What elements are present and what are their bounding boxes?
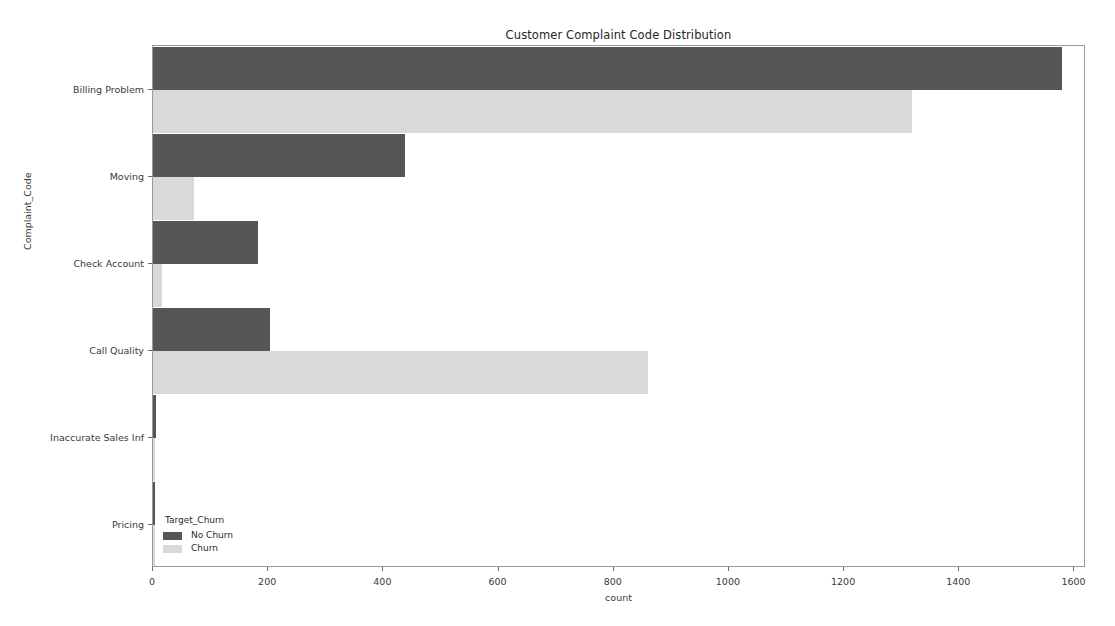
bar-check-account-no-churn (153, 221, 258, 264)
bar-billing-problem-churn (153, 90, 912, 133)
y-tick-mark (148, 263, 152, 264)
x-tick-label-0: 0 (149, 576, 155, 587)
x-tick-mark (613, 567, 614, 571)
bar-moving-no-churn (153, 134, 405, 177)
bar-moving-churn (153, 177, 194, 220)
legend-swatch-icon (163, 532, 182, 540)
legend-swatch-icon (163, 545, 182, 553)
x-tick-label-1200: 1200 (831, 576, 855, 587)
x-tick-label-1000: 1000 (716, 576, 740, 587)
x-tick-label-1600: 1600 (1061, 576, 1085, 587)
y-tick-label-billing-problem: Billing Problem (73, 83, 144, 94)
legend-entry-no-churn: No Churn (163, 529, 233, 542)
x-tick-label-600: 600 (488, 576, 506, 587)
y-tick-label-moving: Moving (110, 170, 144, 181)
x-tick-mark (382, 567, 383, 571)
chart-title: Customer Complaint Code Distribution (152, 28, 1085, 42)
y-axis-title: Complaint_Code (22, 172, 33, 250)
legend-entry-churn: Churn (163, 542, 233, 555)
x-tick-mark (152, 567, 153, 571)
bar-pricing-churn (153, 525, 155, 568)
x-tick-label-1400: 1400 (946, 576, 970, 587)
y-tick-label-check-account: Check Account (73, 257, 144, 268)
plot-area (152, 45, 1085, 567)
matplotlib-figure: Customer Complaint Code Distribution Com… (0, 0, 1115, 626)
x-tick-mark (728, 567, 729, 571)
y-tick-label-call-quality: Call Quality (89, 344, 144, 355)
legend-label: Churn (191, 542, 218, 555)
y-tick-mark (148, 350, 152, 351)
bar-pricing-no-churn (153, 482, 155, 525)
x-tick-mark (498, 567, 499, 571)
bar-call-quality-churn (153, 351, 648, 394)
y-tick-mark (148, 437, 152, 438)
x-tick-mark (843, 567, 844, 571)
legend-label: No Churn (191, 529, 233, 542)
y-tick-label-pricing: Pricing (112, 518, 144, 529)
bar-billing-problem-no-churn (153, 47, 1062, 90)
legend-entries: No ChurnChurn (163, 529, 233, 555)
x-tick-mark (1073, 567, 1074, 571)
x-tick-label-400: 400 (373, 576, 391, 587)
legend-title: Target_Churn (165, 514, 233, 527)
x-axis-title: count (152, 592, 1085, 603)
y-tick-mark (148, 89, 152, 90)
bar-inaccurate-sales-inf-churn (153, 438, 155, 481)
x-tick-mark (958, 567, 959, 571)
bar-call-quality-no-churn (153, 308, 270, 351)
y-tick-mark (148, 176, 152, 177)
y-tick-label-inaccurate-sales-inf: Inaccurate Sales Inf (50, 431, 144, 442)
x-tick-label-800: 800 (604, 576, 622, 587)
bar-check-account-churn (153, 264, 162, 307)
legend: Target_Churn No ChurnChurn (158, 510, 241, 560)
y-tick-mark (148, 524, 152, 525)
bar-inaccurate-sales-inf-no-churn (153, 395, 156, 438)
x-tick-label-200: 200 (258, 576, 276, 587)
x-tick-mark (267, 567, 268, 571)
